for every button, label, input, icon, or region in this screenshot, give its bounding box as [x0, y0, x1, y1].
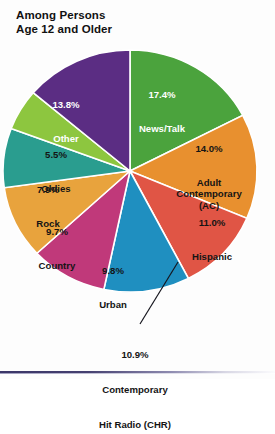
scan-artifact-line-secondary: [0, 373, 275, 374]
callout-pct-chr: 10.9%: [60, 349, 210, 361]
callout-line-2: Contemporary: [60, 384, 210, 396]
callout-line-3: Hit Radio (CHR): [60, 419, 210, 431]
callout-chr: 10.9% Contemporary Hit Radio (CHR): [60, 326, 210, 434]
